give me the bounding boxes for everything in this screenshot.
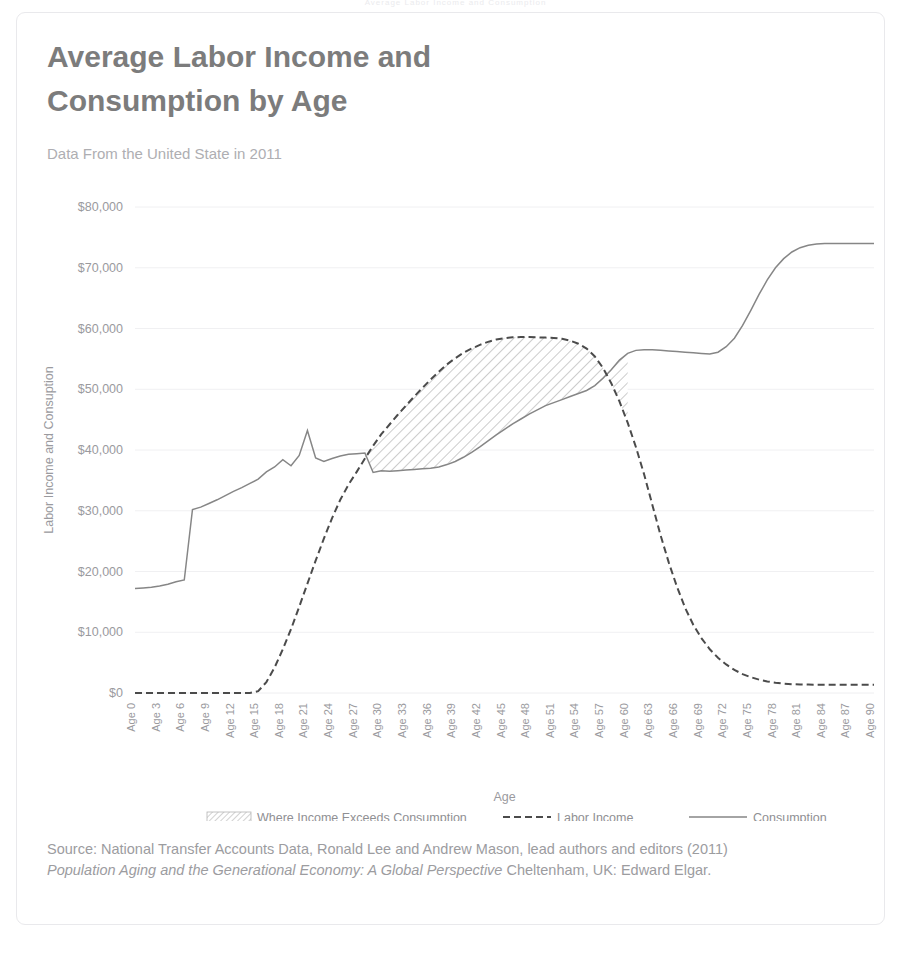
x-tick-label: Age 12: [224, 703, 236, 738]
y-axis-title: Labor Income and Consuption: [42, 366, 56, 534]
x-tick-label: Age 3: [150, 703, 162, 732]
legend-swatch-hatch: [207, 812, 251, 821]
x-tick-labels: Age 0Age 3Age 6Age 9Age 12Age 15Age 18Ag…: [125, 703, 876, 738]
x-tick-label: Age 63: [642, 703, 654, 738]
source-part-1: Source: National Transfer Accounts Data,…: [47, 841, 728, 857]
page-subtitle: Data From the United State in 2011: [47, 145, 747, 162]
x-tick-label: Age 69: [692, 703, 704, 738]
y-tick-label: $0: [109, 686, 123, 700]
x-tick-label: Age 0: [125, 703, 137, 732]
x-tick-label: Age 39: [445, 703, 457, 738]
x-tick-label: Age 33: [396, 703, 408, 738]
ghost-header-text: Average Labor Income and Consumption: [0, 0, 911, 8]
x-tick-label: Age 54: [568, 703, 580, 738]
x-tick-label: Age 21: [297, 703, 309, 738]
chart-page: Average Labor Income and Consumption Ave…: [0, 0, 911, 954]
x-tick-label: Age 78: [766, 703, 778, 738]
chart-legend: Where Income Exceeds ConsumptionLabor In…: [207, 811, 827, 821]
x-tick-label: Age 30: [371, 703, 383, 738]
x-tick-label: Age 48: [519, 703, 531, 738]
x-tick-label: Age 15: [248, 703, 260, 738]
x-tick-label: Age 72: [716, 703, 728, 738]
y-tick-label: $20,000: [78, 565, 123, 579]
y-tick-label: $10,000: [78, 625, 123, 639]
y-tick-label: $60,000: [78, 322, 123, 336]
page-title-line-2: Consumption by Age: [47, 79, 747, 123]
legend-label-labor-income: Labor Income: [557, 811, 633, 821]
y-tick-label: $50,000: [78, 382, 123, 396]
y-tick-label: $40,000: [78, 443, 123, 457]
y-tick-label: $80,000: [78, 200, 123, 214]
x-tick-label: Age 87: [839, 703, 851, 738]
y-tick-label: $30,000: [78, 504, 123, 518]
x-tick-label: Age 60: [618, 703, 630, 738]
x-tick-label: Age 45: [495, 703, 507, 738]
source-part-2: Cheltenham, UK: Edward Elgar.: [502, 862, 711, 878]
x-tick-label: Age 6: [174, 703, 186, 732]
x-tick-label: Age 51: [544, 703, 556, 738]
x-axis-title: Age: [493, 790, 515, 804]
x-tick-label: Age 90: [864, 703, 876, 738]
x-tick-label: Age 24: [322, 703, 334, 738]
page-title-line-1: Average Labor Income and: [47, 35, 747, 79]
chart-card: Average Labor Income and Consumption by …: [16, 12, 885, 925]
legend-label-consumption: Consumption: [753, 811, 827, 821]
line-chart: $80,000$70,000$60,000$50,000$40,000$30,0…: [17, 181, 886, 821]
x-tick-label: Age 81: [790, 703, 802, 738]
income-exceeds-consumption-area: [365, 337, 628, 472]
x-tick-label: Age 36: [421, 703, 433, 738]
y-tick-label: $70,000: [78, 261, 123, 275]
x-tick-label: Age 18: [273, 703, 285, 738]
page-title: Average Labor Income and Consumption by …: [47, 35, 747, 123]
x-tick-label: Age 75: [741, 703, 753, 738]
x-tick-label: Age 9: [199, 703, 211, 732]
source-note: Source: National Transfer Accounts Data,…: [47, 839, 747, 881]
x-tick-label: Age 27: [347, 703, 359, 738]
x-tick-label: Age 84: [815, 703, 827, 738]
x-tick-label: Age 66: [667, 703, 679, 738]
source-italic-title: Population Aging and the Generational Ec…: [47, 862, 502, 878]
x-tick-label: Age 57: [593, 703, 605, 738]
chart-plot-area: $80,000$70,000$60,000$50,000$40,000$30,0…: [17, 181, 886, 821]
x-tick-label: Age 42: [470, 703, 482, 738]
legend-label-area: Where Income Exceeds Consumption: [257, 811, 467, 821]
